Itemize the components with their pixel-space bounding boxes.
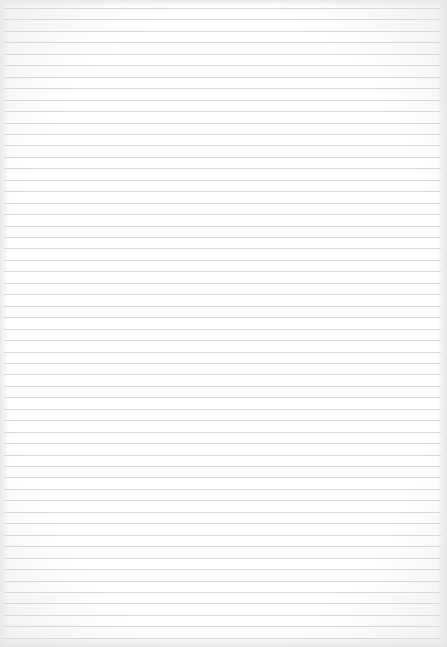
ruled-line — [4, 237, 441, 238]
ruled-line — [4, 363, 441, 364]
ruled-line — [4, 466, 441, 467]
ruled-line — [4, 603, 441, 604]
ruled-line — [4, 145, 441, 146]
ruled-line — [4, 31, 441, 32]
ruled-line — [4, 111, 441, 112]
ruled-line — [4, 638, 441, 639]
ruled-line — [4, 409, 441, 410]
ruled-line — [4, 546, 441, 547]
ruled-line — [4, 592, 441, 593]
ruled-line — [4, 134, 441, 135]
ruled-line — [4, 65, 441, 66]
ruled-line — [4, 523, 441, 524]
ruled-line — [4, 294, 441, 295]
lined-paper-sheet — [0, 0, 447, 647]
ruled-line — [4, 374, 441, 375]
ruled-line — [4, 432, 441, 433]
ruled-line — [4, 626, 441, 627]
ruled-line — [4, 168, 441, 169]
paper-edge-top — [0, 0, 447, 6]
ruled-line — [4, 455, 441, 456]
ruled-line — [4, 226, 441, 227]
ruled-line — [4, 397, 441, 398]
ruled-line — [4, 329, 441, 330]
ruled-line — [4, 8, 441, 9]
ruled-line — [4, 248, 441, 249]
ruled-line — [4, 420, 441, 421]
ruled-line — [4, 260, 441, 261]
paper-edge-right — [437, 0, 447, 647]
ruled-line — [4, 191, 441, 192]
ruled-line — [4, 489, 441, 490]
ruled-line — [4, 443, 441, 444]
ruled-line — [4, 180, 441, 181]
ruled-line — [4, 306, 441, 307]
ruled-line — [4, 203, 441, 204]
ruled-line — [4, 615, 441, 616]
ruled-line — [4, 214, 441, 215]
ruled-line — [4, 581, 441, 582]
ruled-line — [4, 352, 441, 353]
ruled-line — [4, 271, 441, 272]
ruled-line — [4, 19, 441, 20]
ruled-line — [4, 558, 441, 559]
ruled-line — [4, 100, 441, 101]
ruled-line — [4, 386, 441, 387]
ruled-line — [4, 157, 441, 158]
paper-edge-left — [0, 0, 8, 647]
ruled-line — [4, 54, 441, 55]
ruled-line — [4, 123, 441, 124]
ruled-line — [4, 283, 441, 284]
ruled-line — [4, 88, 441, 89]
ruled-line — [4, 317, 441, 318]
ruled-line — [4, 77, 441, 78]
ruled-line — [4, 340, 441, 341]
ruled-line — [4, 512, 441, 513]
ruled-line — [4, 500, 441, 501]
ruled-line — [4, 477, 441, 478]
ruled-line — [4, 42, 441, 43]
ruled-line — [4, 569, 441, 570]
ruled-line — [4, 535, 441, 536]
